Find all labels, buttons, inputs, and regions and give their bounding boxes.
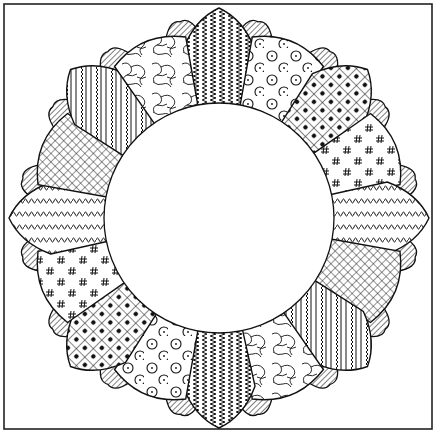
quilt-illustration xyxy=(0,0,436,439)
dresden-plate-drawing xyxy=(0,0,436,439)
center-circle xyxy=(104,103,334,333)
